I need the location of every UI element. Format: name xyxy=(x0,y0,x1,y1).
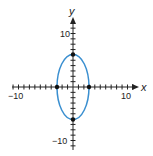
y-axis-label: y xyxy=(68,5,76,17)
covertex-left xyxy=(55,85,59,89)
y-max-label: 10 xyxy=(60,29,70,39)
y-axis-arrow-icon xyxy=(70,17,76,24)
vertex-top xyxy=(71,52,75,56)
covertex-right xyxy=(87,85,91,89)
vertex-bottom xyxy=(71,117,75,121)
y-min-label: −10 xyxy=(52,136,67,146)
chart: x y −10 10 10 −10 xyxy=(0,0,153,156)
x-min-label: −10 xyxy=(8,91,23,101)
x-max-label: 10 xyxy=(121,91,131,101)
x-axis-label: x xyxy=(140,81,147,93)
